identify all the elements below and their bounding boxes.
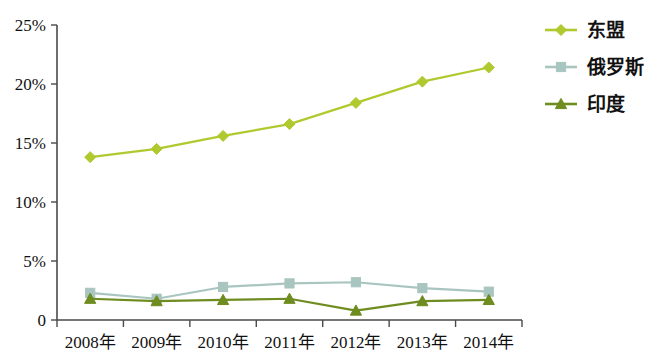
data-point-marker	[85, 152, 96, 163]
chart-canvas: 05%10%15%20%25% 2008年2009年2010年2011年2012…	[0, 0, 659, 358]
data-point-marker	[350, 97, 361, 108]
x-tick-label: 2013年	[397, 333, 448, 352]
data-point-marker	[218, 130, 229, 141]
data-point-marker	[285, 279, 294, 288]
data-point-marker	[151, 143, 162, 154]
legend-item-asean[interactable]: 东盟	[545, 19, 625, 41]
chart-legend: 东盟俄罗斯印度	[545, 19, 644, 115]
legend-item-india[interactable]: 印度	[545, 93, 626, 115]
y-tick-label: 10%	[15, 193, 46, 212]
series-asean	[85, 62, 495, 163]
y-axis-ticks: 05%10%15%20%25%	[15, 16, 57, 330]
y-tick-label: 0	[38, 311, 47, 330]
legend-label: 印度	[587, 93, 626, 115]
series-line	[90, 67, 489, 157]
legend-label: 俄罗斯	[586, 56, 644, 78]
y-tick-label: 20%	[15, 75, 46, 94]
data-point-marker	[418, 284, 427, 293]
x-tick-label: 2011年	[264, 333, 314, 352]
legend-item-russia[interactable]: 俄罗斯	[545, 56, 644, 78]
data-point-marker	[483, 62, 494, 73]
data-point-marker	[218, 282, 227, 291]
x-tick-label: 2010年	[198, 333, 249, 352]
x-tick-label: 2009年	[131, 333, 182, 352]
y-tick-label: 5%	[23, 252, 46, 271]
x-tick-label: 2012年	[330, 333, 381, 352]
axes	[57, 25, 522, 320]
data-point-marker	[284, 119, 295, 130]
data-series	[85, 62, 495, 315]
axis-lines	[57, 25, 522, 320]
legend-marker-icon	[556, 62, 565, 71]
x-tick-label: 2014年	[463, 333, 514, 352]
series-india	[85, 293, 495, 315]
legend-marker-icon	[556, 25, 567, 36]
legend-label: 东盟	[587, 19, 625, 41]
y-tick-label: 15%	[15, 134, 46, 153]
line-chart: 05%10%15%20%25% 2008年2009年2010年2011年2012…	[0, 0, 659, 358]
x-tick-label: 2008年	[65, 333, 116, 352]
y-tick-label: 25%	[15, 16, 46, 35]
x-axis-ticks: 2008年2009年2010年2011年2012年2013年2014年	[57, 320, 522, 352]
data-point-marker	[417, 76, 428, 87]
data-point-marker	[351, 278, 360, 287]
